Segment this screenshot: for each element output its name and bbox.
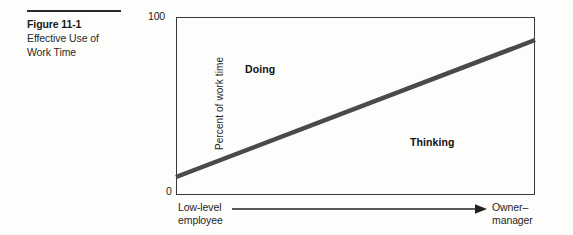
caption-divider-rule	[27, 10, 121, 12]
figure-number: Figure 11-1	[27, 17, 131, 31]
doing-thinking-divider-line	[176, 40, 535, 177]
y-axis-tick-min: 0	[166, 185, 172, 197]
figure-caption: Figure 11-1 Effective Use of Work Time	[27, 10, 131, 59]
figure-title-line-1: Effective Use of	[27, 31, 131, 45]
x-axis-label-right-line-2: manager	[492, 214, 533, 227]
x-axis-label-left-line-1: Low-level	[178, 201, 223, 214]
figure-title-line-2: Work Time	[27, 45, 131, 59]
x-axis-label-left: Low-level employee	[178, 201, 223, 226]
x-axis-label-right-line-1: Owner–	[492, 201, 533, 214]
x-axis-label-right: Owner– manager	[492, 201, 533, 226]
region-label-doing: Doing	[245, 63, 275, 75]
y-axis-title-wrapper: Percent of work time	[152, 0, 166, 200]
x-axis-label-left-line-2: employee	[178, 214, 223, 227]
region-label-thinking: Thinking	[410, 136, 455, 148]
y-axis-tick-max: 100	[148, 10, 165, 22]
figure-page: Figure 11-1 Effective Use of Work Time P…	[0, 0, 573, 235]
progression-arrow-icon	[232, 202, 487, 216]
trend-line-svg	[176, 17, 535, 195]
